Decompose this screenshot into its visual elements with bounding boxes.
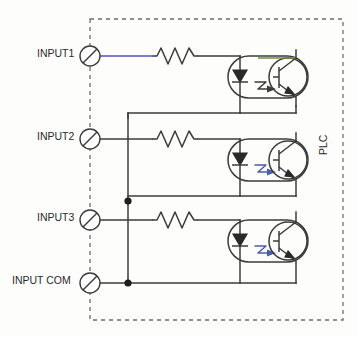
phototransistor-1 <box>269 58 307 97</box>
phototransistor-3 <box>269 222 307 261</box>
terminal-label-input1: INPUT1 <box>37 48 74 59</box>
junction-dot-common-bottom <box>124 279 131 286</box>
terminal-input3[interactable] <box>80 210 100 230</box>
channel-1 <box>100 48 308 118</box>
resistor-1 <box>152 48 198 64</box>
resistor-3 <box>152 212 198 228</box>
plc-enclosure-label: PLC <box>318 135 329 155</box>
led-1 <box>232 70 248 82</box>
phototransistor-2 <box>269 141 307 180</box>
resistor-2 <box>152 131 198 147</box>
terminal-input2[interactable] <box>80 129 100 149</box>
led-3 <box>232 234 248 246</box>
channel-2 <box>100 131 308 196</box>
terminal-label-input2: INPUT2 <box>37 131 74 142</box>
wire-opto1-return-to-common <box>128 113 240 118</box>
terminal-inputcom[interactable] <box>80 273 100 293</box>
channel-3 <box>100 212 308 283</box>
led-2 <box>232 153 248 165</box>
terminal-input1[interactable] <box>80 46 100 66</box>
plc-input-circuit-diagram: INPUT1 INPUT2 INPUT3 INPUT COM PLC <box>0 0 357 337</box>
junction-dot-common-mid <box>124 197 131 204</box>
terminal-label-input3: INPUT3 <box>37 212 74 223</box>
terminal-label-inputcom: INPUT COM <box>12 275 71 286</box>
